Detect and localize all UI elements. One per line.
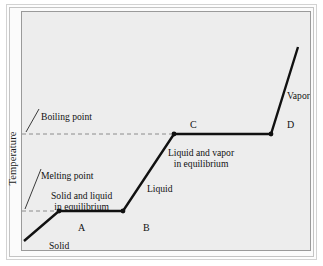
data-point-d [269,132,274,137]
boiling-point-leader-line [26,109,39,132]
figure-root: Temperature Boiling point Melting point … [0,0,323,266]
point-label-b: B [143,223,150,233]
annotation-vapor-region: Vapor [287,90,310,101]
annotation-liquid-vapor-equilibrium: Liquid and vapor in equilibrium [168,147,234,169]
y-axis-label: Temperature [7,94,18,224]
heating-curve-plot [22,12,311,251]
plot-panel: Boiling point Melting point Solid and li… [21,11,311,251]
melting-point-leader-line [25,169,41,209]
annotation-solid-liquid-line2: in equilibrium [51,201,112,212]
annotation-liquid-region: Liquid [147,183,173,194]
point-label-c: C [190,120,197,130]
annotation-melting-point: Melting point [41,170,94,181]
data-point-b [121,209,126,214]
annotation-liquid-vapor-line2: in equilibrium [168,158,234,169]
point-label-a: A [78,223,85,233]
annotation-boiling-point: Boiling point [41,111,92,122]
point-label-d: D [287,120,294,130]
annotation-solid-region: Solid [49,240,69,251]
annotation-solid-liquid-line1: Solid and liquid [51,190,112,201]
data-point-c [172,132,177,137]
annotation-liquid-vapor-line1: Liquid and vapor [168,147,234,158]
annotation-solid-liquid-equilibrium: Solid and liquid in equilibrium [51,190,112,212]
